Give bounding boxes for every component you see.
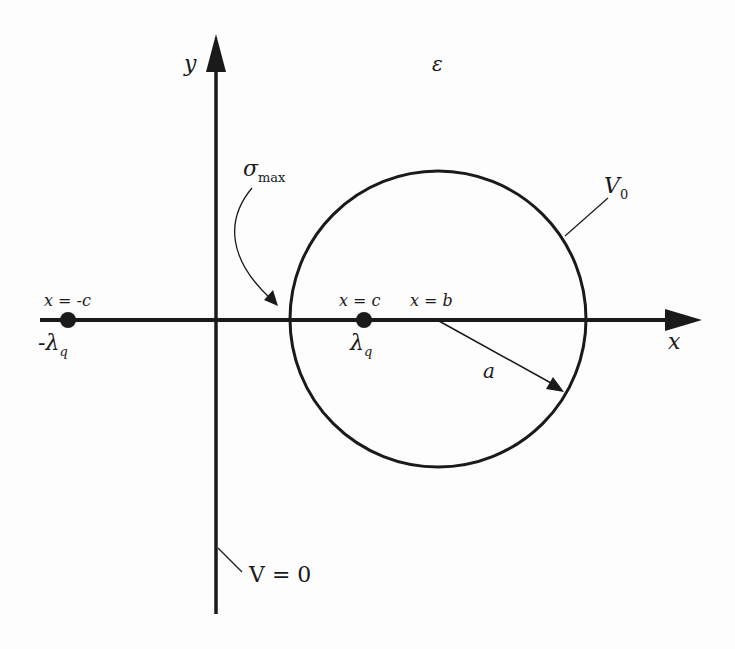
- radius-arrow: [439, 321, 564, 392]
- v-zero-leader-line: [218, 548, 242, 572]
- v0-leader-line: [565, 198, 608, 236]
- negative-charge-label: -λq: [38, 330, 68, 359]
- sigma-arrowhead-icon: [264, 290, 278, 306]
- radius-label: a: [483, 359, 495, 383]
- x-axis-arrow-icon: [665, 309, 702, 331]
- diagram-canvas: y x ε V0 σmax a x = b x = -c x = c -λq λ…: [0, 0, 735, 649]
- negative-charge-position-label: x = -c: [44, 291, 91, 310]
- x-axis-label: x: [668, 329, 681, 354]
- center-position-label: x = b: [410, 291, 453, 310]
- positive-charge-position-label: x = c: [339, 291, 381, 310]
- permittivity-label: ε: [432, 52, 443, 76]
- sigma-max-label: σmax: [243, 156, 286, 185]
- positive-charge-label: λq: [349, 330, 372, 359]
- y-axis: [206, 34, 226, 614]
- sigma-max-arrow: [235, 188, 278, 306]
- radius-arrowhead-icon: [546, 377, 564, 392]
- plane-potential-label: V = 0: [248, 562, 311, 587]
- y-axis-arrow-icon: [206, 34, 226, 72]
- charge-point-positive: [356, 312, 372, 328]
- charge-point-negative: [60, 312, 76, 328]
- v0-label: V0: [604, 173, 628, 202]
- y-axis-label: y: [183, 51, 197, 76]
